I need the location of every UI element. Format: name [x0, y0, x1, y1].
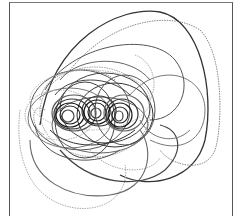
lower-sweep	[60, 125, 178, 182]
trajectory-plot	[0, 0, 236, 216]
outer-loop-mid	[30, 130, 148, 196]
cluster-left	[52, 95, 96, 131]
